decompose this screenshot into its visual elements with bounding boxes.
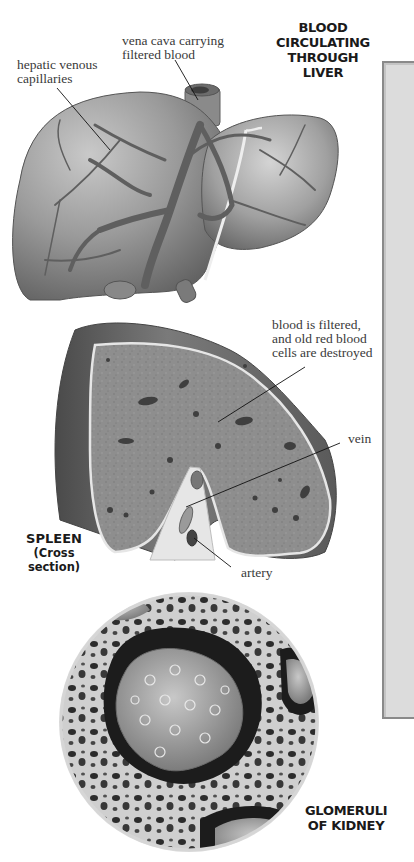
artery-callout: artery [241, 566, 272, 580]
spleen-filter-callout: blood is filtered, and old red blood cel… [272, 318, 372, 360]
kidney-title-line-1: GLOMERULI [305, 803, 387, 818]
liver-title-line-2: CIRCULATING [268, 35, 378, 50]
spleen-filter-line-1: blood is filtered, [272, 318, 372, 332]
vein-label: vein [348, 431, 371, 446]
hepatic-capillaries-callout: hepatic venous capillaries [17, 58, 98, 86]
liver-title-line-1: BLOOD [268, 20, 378, 35]
spleen-title-line: SPLEEN [14, 531, 94, 546]
hepatic-line-2: capillaries [17, 72, 98, 86]
vena-cava-callout: vena cava carrying filtered blood [122, 34, 224, 62]
spleen-filter-line-2: and old red blood [272, 332, 372, 346]
spleen-subtitle: (Cross section) [14, 546, 94, 574]
kidney-title-line-2: OF KIDNEY [305, 818, 387, 833]
spleen-filter-line-3: cells are destroyed [272, 346, 372, 360]
liver-illustration [13, 60, 339, 304]
kidney-title: GLOMERULI OF KIDNEY [305, 803, 387, 833]
kidney-glomeruli-illustration [59, 592, 322, 860]
vena-cava-line-1: vena cava carrying [122, 34, 224, 48]
side-panel [382, 61, 414, 719]
liver-title: BLOOD CIRCULATING THROUGH LIVER [268, 20, 378, 80]
vein-callout: vein [348, 432, 371, 446]
liver-title-line-4: LIVER [268, 65, 378, 80]
spleen-title: SPLEEN (Cross section) [14, 531, 94, 574]
hepatic-line-1: hepatic venous [17, 58, 98, 72]
vena-cava-line-2: filtered blood [122, 48, 224, 62]
liver-title-line-3: THROUGH [268, 50, 378, 65]
artery-label: artery [241, 565, 272, 580]
